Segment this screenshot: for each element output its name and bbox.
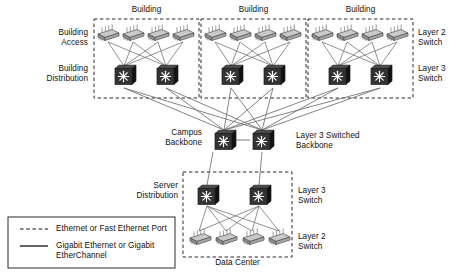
layer2-switch-top-label: Layer 2 Switch [418, 28, 450, 47]
data-center-access-links [199, 206, 279, 231]
building-3-label: Building [308, 5, 413, 15]
building2-access-switch-3[interactable] [255, 24, 276, 40]
datacenter-access-switch-3[interactable] [243, 228, 264, 244]
building1-access-switch-4[interactable] [173, 24, 194, 40]
legend-item-ethernet-label: Ethernet or Fast Ethernet Port [56, 224, 174, 234]
legend-item-gigabit-label: Gigabit Ethernet or Gigabit EtherChannel [56, 241, 174, 260]
server-distribution-switch-1[interactable] [198, 185, 219, 204]
campus-backbone-tier-label: Campus Backbone [120, 128, 202, 147]
server-distribution-switch-2[interactable] [250, 185, 271, 204]
building-distribution-tier-label: Building Distribution [2, 64, 88, 83]
building3-distribution-switch-1[interactable] [329, 65, 350, 84]
building-1-label: Building [94, 5, 199, 15]
building1-access-switch-3[interactable] [148, 24, 169, 40]
building-access-tier-label: Building Access [8, 28, 88, 47]
building2-distribution-switch-2[interactable] [264, 65, 285, 84]
building3-access-switch-3[interactable] [362, 24, 383, 40]
building3-access-switch-4[interactable] [387, 24, 408, 40]
layer3-switched-backbone-label: Layer 3 Switched Backbone [296, 131, 416, 150]
building2-distribution-switch-1[interactable] [222, 65, 243, 84]
layer3-switch-top-label: Layer 3 Switch [418, 64, 450, 83]
backbone-to-server-distribution-links [207, 152, 262, 185]
building-2-label: Building [201, 5, 306, 15]
campus-backbone-switch-2[interactable] [253, 130, 274, 149]
layer2-switch-datacenter-label: Layer 2 Switch [298, 232, 358, 251]
data-center-label: Data Center [183, 258, 292, 268]
building2-access-switch-2[interactable] [230, 24, 251, 40]
building3-distribution-switch-2[interactable] [371, 65, 392, 84]
datacenter-access-switch-2[interactable] [216, 228, 237, 244]
building1-access-switch-2[interactable] [123, 24, 144, 40]
distribution-to-backbone-links [124, 88, 380, 130]
layer3-switch-datacenter-label: Layer 3 Switch [298, 186, 358, 205]
building-2-access-links [215, 42, 290, 66]
campus-backbone-switch-1[interactable] [215, 130, 236, 149]
server-distribution-tier-label: Server Distribution [106, 181, 178, 200]
building1-access-switch-1[interactable] [98, 24, 119, 40]
building3-access-switch-2[interactable] [337, 24, 358, 40]
building2-access-switch-4[interactable] [280, 24, 301, 40]
datacenter-access-switch-4[interactable] [269, 228, 290, 244]
building3-access-switch-1[interactable] [312, 24, 333, 40]
building1-distribution-switch-1[interactable] [115, 65, 136, 84]
building2-access-switch-1[interactable] [205, 24, 226, 40]
datacenter-access-switch-1[interactable] [190, 228, 211, 244]
building-3-access-links [322, 42, 397, 66]
building-1-access-links [108, 42, 183, 66]
building1-distribution-switch-2[interactable] [157, 65, 178, 84]
